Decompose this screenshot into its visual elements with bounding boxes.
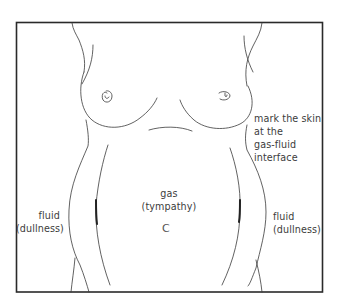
fluid-left-line-2: (dullness) [16, 222, 60, 235]
right-nipple [219, 92, 230, 100]
right-thigh-line [256, 260, 262, 292]
gas-label: gas (tympathy) [139, 187, 199, 213]
abdomen-percussion-diagram: mark the skin at the gas-fluid interface… [0, 0, 337, 308]
left-axilla-line [82, 45, 93, 84]
fluid-right-line-2: (dullness) [273, 223, 321, 236]
gas-line-1: gas [139, 187, 199, 200]
marker-annotation: mark the skin at the gas-fluid interface [254, 112, 321, 164]
fluid-left-line-1: fluid [16, 209, 60, 222]
marker-line-3: gas-fluid [254, 138, 321, 151]
marker-line-4: interface [254, 151, 321, 164]
costal-margin-curve [149, 127, 192, 131]
fluid-left-label: fluid (dullness) [16, 209, 60, 235]
left-nipple [102, 91, 112, 102]
navel-mark: C [162, 222, 170, 235]
left-torso-outer [69, 120, 89, 292]
fluid-right-label: fluid (dullness) [273, 210, 321, 236]
right-arm-outline [246, 23, 262, 86]
right-breast-outline [180, 86, 252, 129]
fluid-right-line-1: fluid [273, 210, 321, 223]
right-skin-mark [239, 200, 240, 222]
marker-line-1: mark the skin [254, 112, 321, 125]
left-inner-flank [96, 145, 110, 285]
left-arm-outline [72, 23, 85, 72]
left-thigh-line [71, 258, 75, 292]
right-inner-flank [222, 148, 240, 285]
marker-line-2: at the [254, 125, 321, 138]
left-skin-mark [96, 200, 97, 224]
gas-line-2: (tympathy) [139, 200, 199, 213]
right-axilla-line [244, 36, 253, 72]
left-breast-outline [81, 72, 157, 127]
